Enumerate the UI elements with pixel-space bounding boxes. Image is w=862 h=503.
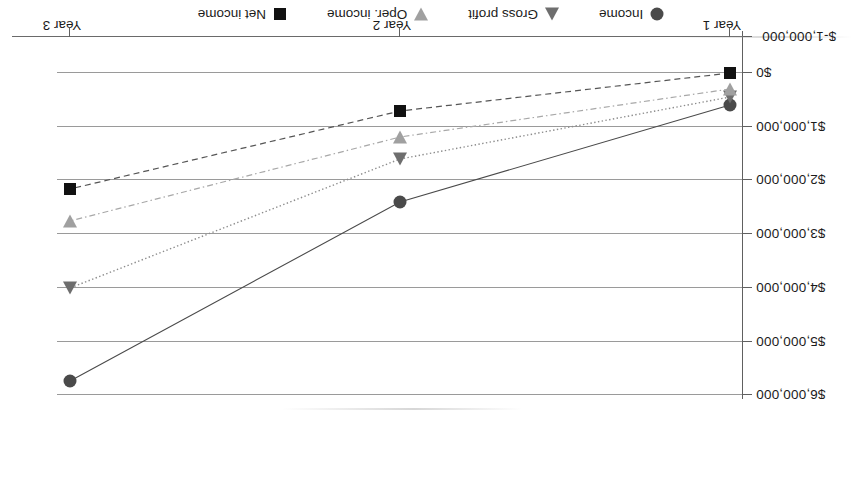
data-point-income-year-3	[64, 375, 77, 388]
triangle-up-marker-icon	[545, 8, 559, 22]
data-point-net-income-year-2	[394, 105, 406, 117]
legend-label-gross-profit: Gross profit	[468, 7, 538, 22]
data-point-gross-profit-year-3	[63, 282, 77, 295]
series-line-income	[70, 105, 730, 381]
data-point-oper-income-year-1	[723, 83, 737, 96]
legend-item-oper-income[interactable]: Oper. income	[327, 7, 428, 22]
series-line-gross-profit	[70, 97, 730, 288]
data-point-oper-income-year-3	[63, 215, 77, 228]
data-point-oper-income-year-2	[393, 131, 407, 144]
legend-item-gross-profit[interactable]: Gross profit	[468, 7, 559, 22]
data-point-gross-profit-year-2	[393, 153, 407, 166]
circle-marker-icon	[650, 8, 664, 22]
data-point-income-year-2	[394, 196, 407, 209]
legend-item-income[interactable]: Income	[599, 7, 664, 22]
legend-label-net-income: Net income	[198, 7, 266, 22]
line-chart: $6,000,000 $5,000,000 $4,000,000 $3,000,…	[0, 0, 862, 503]
legend-label-income: Income	[599, 7, 643, 22]
square-marker-icon	[273, 8, 287, 22]
data-point-net-income-year-1	[724, 67, 736, 79]
chart-figure-rotated-container: $6,000,000 $5,000,000 $4,000,000 $3,000,…	[0, 0, 862, 503]
legend-item-net-income[interactable]: Net income	[198, 7, 287, 22]
chart-legend: Income Gross profit Oper. income Net inc…	[0, 7, 862, 22]
legend-label-oper-income: Oper. income	[327, 7, 407, 22]
triangle-down-marker-icon	[414, 8, 428, 22]
data-point-net-income-year-3	[64, 183, 76, 195]
